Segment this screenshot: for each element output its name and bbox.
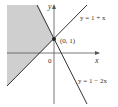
x-axis-label: x <box>94 56 99 65</box>
intersection-point <box>52 37 56 41</box>
x-axis-arrow-icon <box>95 51 100 55</box>
y-axis-arrow-icon <box>52 4 56 9</box>
intersection-label: (0, 1) <box>60 37 76 45</box>
y-axis-label: y <box>47 2 52 11</box>
origin-label: 0 <box>48 57 52 65</box>
inequality-graph: y x 0 (0, 1) y = 1 + x y = 1 − 2x <box>0 0 118 107</box>
line-label-y-1-minus-2x: y = 1 − 2x <box>78 77 107 85</box>
line-label-y-1-plus-x: y = 1 + x <box>80 14 106 22</box>
